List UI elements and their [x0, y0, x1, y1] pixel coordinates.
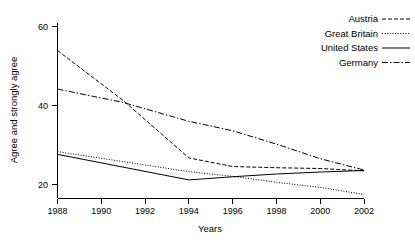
x-tick-label: 1996 — [223, 206, 243, 216]
series-line-germany — [58, 89, 365, 170]
series-line-austria — [58, 51, 365, 171]
x-axis-ticks: 19881990199219941996199820002002 — [47, 199, 374, 217]
legend-label-great-britain: Great Britain — [325, 28, 378, 39]
x-tick-label: 1990 — [91, 206, 111, 216]
legend-label-united-states: United States — [321, 42, 378, 53]
y-tick-label: 40 — [38, 101, 48, 111]
line-chart: 204060 19881990199219941996199820002002 … — [0, 0, 415, 244]
legend-label-austria: Austria — [348, 13, 378, 24]
chart-series-group — [58, 51, 365, 195]
y-tick-label: 60 — [38, 22, 48, 32]
legend-label-germany: Germany — [339, 57, 378, 68]
x-tick-label: 1994 — [179, 206, 199, 216]
chart-legend: AustriaGreat BritainUnited StatesGermany — [321, 13, 410, 68]
x-tick-label: 1992 — [135, 206, 155, 216]
x-tick-label: 2002 — [354, 206, 374, 216]
x-tick-label: 1988 — [47, 206, 67, 216]
y-axis-ticks: 204060 — [38, 22, 58, 189]
chart-container: 204060 19881990199219941996199820002002 … — [0, 0, 415, 244]
x-axis-title: Years — [198, 223, 222, 234]
y-tick-label: 20 — [38, 180, 48, 190]
x-tick-label: 1998 — [266, 206, 286, 216]
x-tick-label: 2000 — [310, 206, 330, 216]
y-axis-title: Agree and strongly agree — [8, 57, 19, 164]
